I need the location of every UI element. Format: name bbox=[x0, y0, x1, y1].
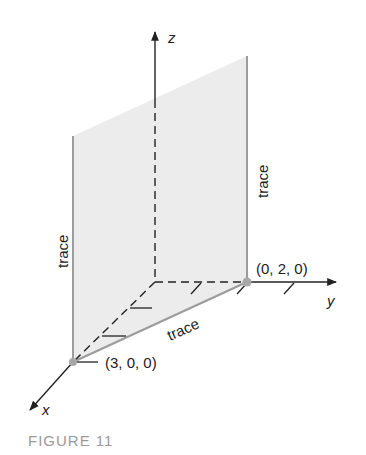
trace-label-left: trace bbox=[54, 235, 71, 268]
point-0-2-0 bbox=[243, 278, 252, 287]
figure-canvas: z y x (3, 0, 0) (0, 2, 0) trace trace tr… bbox=[0, 0, 366, 455]
point-label-3-0-0: (3, 0, 0) bbox=[105, 354, 157, 371]
trace-label-right: trace bbox=[254, 165, 271, 198]
x-axis-label: x bbox=[41, 401, 50, 418]
x-axis-solid bbox=[30, 362, 73, 410]
figure-caption: FIGURE 11 bbox=[28, 432, 113, 449]
z-axis-label: z bbox=[167, 29, 176, 46]
point-3-0-0 bbox=[69, 358, 77, 366]
y-axis-label: y bbox=[326, 292, 336, 309]
trace-label-xy: trace bbox=[164, 315, 201, 344]
point-label-0-2-0: (0, 2, 0) bbox=[256, 260, 308, 277]
plane-surface bbox=[73, 56, 247, 362]
